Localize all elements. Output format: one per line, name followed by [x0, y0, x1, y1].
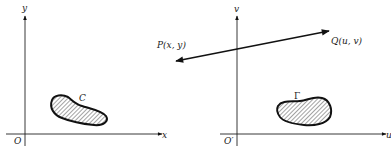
u-axis-label: u: [386, 130, 391, 140]
source-point-label: P(x, y): [156, 40, 186, 50]
origin-label: O: [14, 136, 22, 146]
x-axis-label: x: [162, 130, 167, 140]
mapping-diagram: x y O C u v O′ Γ P(x, y) Q(u, v): [0, 0, 391, 149]
mapping-arrow-group: P(x, y) Q(u, v): [156, 31, 362, 61]
origin-prime-label: O′: [224, 136, 233, 146]
y-axis-label: y: [21, 3, 28, 13]
region-c-label: C: [79, 93, 86, 103]
region-gamma-label: Γ: [294, 91, 300, 101]
v-axis-label: v: [234, 4, 239, 14]
region-gamma: [277, 97, 331, 125]
target-point-label: Q(u, v): [331, 36, 362, 46]
left-coordinate-plane: x y O C: [6, 3, 167, 146]
right-coordinate-plane: u v O′ Γ: [220, 4, 391, 146]
mapping-arrow: [176, 31, 329, 61]
